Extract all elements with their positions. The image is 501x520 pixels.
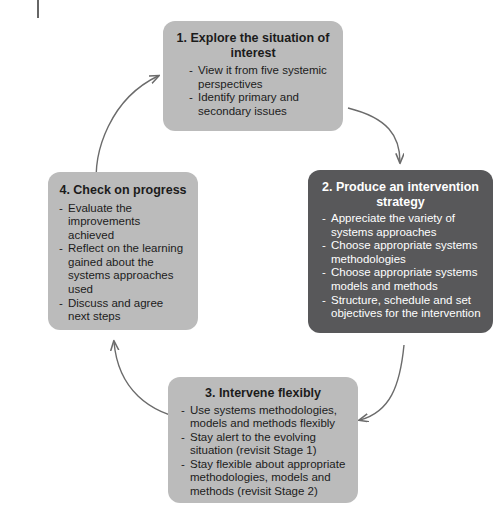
stage-2-title: 2. Produce an intervention strategy <box>318 180 483 209</box>
stage-3-bullet-2-text: Stay flexible about appropriate methodol… <box>190 458 345 497</box>
bullet-dash-icon: - <box>181 404 185 418</box>
stage-box-2[interactable]: 2. Produce an intervention strategy -App… <box>308 170 493 333</box>
stage-box-1[interactable]: 1. Explore the situation of interest -Vi… <box>163 21 343 131</box>
bullet-dash-icon: - <box>181 458 185 472</box>
bullet-dash-icon: - <box>59 202 63 216</box>
stage-2-bullet-3: -Structure, schedule and set objectives … <box>322 294 483 321</box>
diagram-canvas: 1. Explore the situation of interest -Vi… <box>0 0 501 520</box>
stage-1-title: 1. Explore the situation of interest <box>173 31 333 60</box>
arrow-stage1-to-stage2 <box>348 108 400 162</box>
stage-2-bullet-2-text: Choose appropriate systems models and me… <box>331 266 477 292</box>
bullet-dash-icon: - <box>322 239 326 253</box>
bullet-dash-icon: - <box>322 212 326 226</box>
stage-2-bullet-list: -Appreciate the variety of systems appro… <box>322 212 483 321</box>
stage-4-bullet-0: -Evaluate the improvements achieved <box>59 202 188 243</box>
bullet-dash-icon: - <box>181 431 185 445</box>
bullet-dash-icon: - <box>189 91 193 105</box>
stage-3-bullet-list: -Use systems methodologies, models and m… <box>181 404 348 499</box>
stage-4-bullet-1: -Reflect on the learning gained about th… <box>59 242 188 296</box>
bullet-dash-icon: - <box>189 64 193 78</box>
stage-1-bullet-0: -View it from five systemic perspectives <box>189 64 333 91</box>
arrow-stage2-to-stage3 <box>360 345 404 420</box>
stage-2-bullet-0: -Appreciate the variety of systems appro… <box>322 212 483 239</box>
stage-4-bullet-2: -Discuss and agree next steps <box>59 297 188 324</box>
stage-3-bullet-2: -Stay flexible about appropriate methodo… <box>181 458 348 499</box>
stage-4-bullet-2-text: Discuss and agree next steps <box>68 297 163 323</box>
stage-3-bullet-1: -Stay alert to the evolving situation (r… <box>181 431 348 458</box>
bullet-dash-icon: - <box>322 266 326 280</box>
stage-4-bullet-1-text: Reflect on the learning gained about the… <box>68 242 183 295</box>
bullet-dash-icon: - <box>59 242 63 256</box>
stage-4-title: 4. Check on progress <box>58 183 188 198</box>
stage-2-bullet-0-text: Appreciate the variety of systems approa… <box>331 212 455 238</box>
page-corner-tick-mark <box>37 0 39 18</box>
stage-2-bullet-3-text: Structure, schedule and set objectives f… <box>331 294 481 320</box>
stage-1-bullet-list: -View it from five systemic perspectives… <box>189 64 333 118</box>
stage-1-bullet-0-text: View it from five systemic perspectives <box>198 64 327 90</box>
stage-3-bullet-1-text: Stay alert to the evolving situation (re… <box>190 431 317 457</box>
stage-2-bullet-1-text: Choose appropriate systems methodologies <box>331 239 477 265</box>
stage-3-bullet-0-text: Use systems methodologies, models and me… <box>190 404 337 430</box>
stage-box-4[interactable]: 4. Check on progress -Evaluate the impro… <box>48 172 198 330</box>
stage-1-bullet-1-text: Identify primary and secondary issues <box>198 91 299 117</box>
stage-2-bullet-1: -Choose appropriate systems methodologie… <box>322 239 483 266</box>
stage-2-bullet-2: -Choose appropriate systems models and m… <box>322 266 483 293</box>
bullet-dash-icon: - <box>59 297 63 311</box>
stage-box-3[interactable]: 3. Intervene flexibly -Use systems metho… <box>168 377 358 503</box>
stage-3-title: 3. Intervene flexibly <box>178 386 348 401</box>
stage-1-bullet-1: -Identify primary and secondary issues <box>189 91 333 118</box>
stage-4-bullet-list: -Evaluate the improvements achieved -Ref… <box>59 202 188 324</box>
stage-4-bullet-0-text: Evaluate the improvements achieved <box>68 202 140 241</box>
bullet-dash-icon: - <box>322 294 326 308</box>
stage-3-bullet-0: -Use systems methodologies, models and m… <box>181 404 348 431</box>
